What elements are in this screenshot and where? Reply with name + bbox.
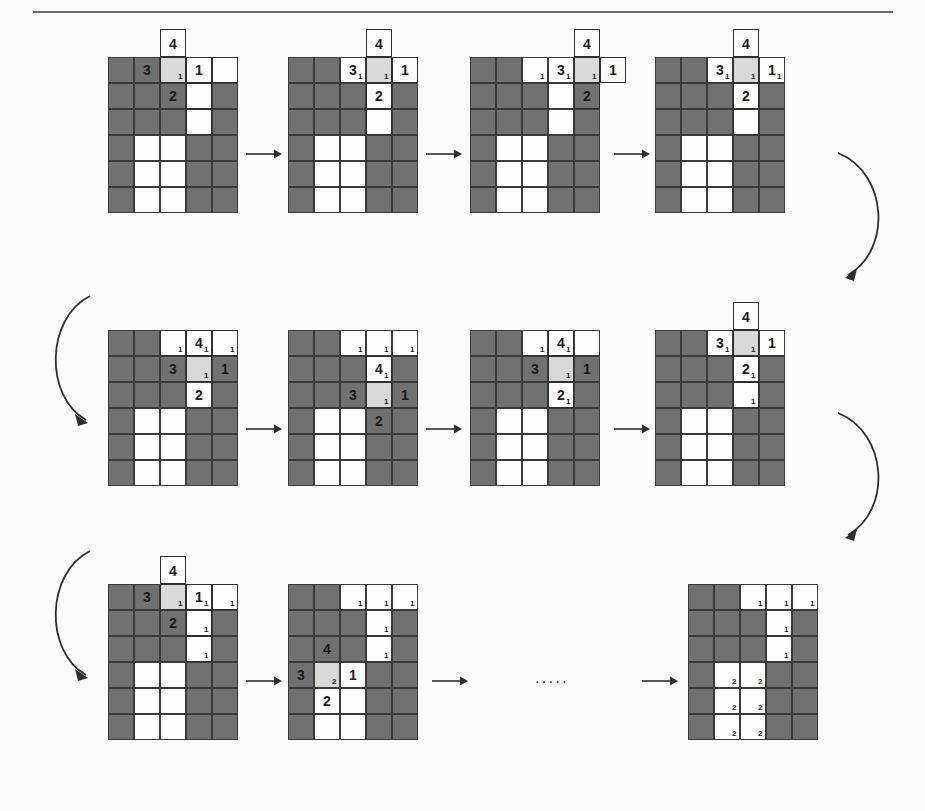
cell-value: 1 xyxy=(768,336,776,350)
cell-value: 3 xyxy=(169,362,177,376)
grid-cell xyxy=(496,434,522,460)
cell-value: 3 xyxy=(716,63,724,77)
grid-cell xyxy=(733,187,759,213)
cell-cost: 1 xyxy=(384,73,388,81)
grid-cell xyxy=(340,688,366,714)
grid-cell xyxy=(688,714,714,740)
grid-cell xyxy=(366,688,392,714)
grid-cell xyxy=(522,408,548,434)
grid-cell xyxy=(108,356,134,382)
page-top-rule xyxy=(33,11,893,13)
grid-cell xyxy=(470,83,496,109)
cell-value: 2 xyxy=(583,89,591,103)
grid-cell xyxy=(681,434,707,460)
grid-cell xyxy=(134,688,160,714)
grid-cell xyxy=(108,714,134,740)
grid-cell xyxy=(759,83,785,109)
grid-cell xyxy=(548,161,574,187)
cell-cost: 2 xyxy=(758,730,762,738)
grid-cell xyxy=(160,434,186,460)
grid-cell xyxy=(108,57,134,83)
continuation-ellipsis: ..... xyxy=(535,668,569,688)
grid-cell xyxy=(212,408,238,434)
grid-step-1: 43121 xyxy=(108,57,238,213)
grid-cell xyxy=(134,662,160,688)
grid-cell xyxy=(714,636,740,662)
grid-cell xyxy=(792,610,818,636)
cell-value: 1 xyxy=(195,63,203,77)
grid-cell xyxy=(548,408,574,434)
cell-cost: 1 xyxy=(758,600,762,608)
grid-cell xyxy=(160,187,186,213)
cell-cost: 1 xyxy=(230,346,234,354)
grid-cell xyxy=(496,460,522,486)
grid-cell xyxy=(470,187,496,213)
grid-cell xyxy=(688,662,714,688)
cell-cost: 1 xyxy=(566,346,570,354)
cell-cost: 1 xyxy=(751,398,755,406)
grid-cell xyxy=(212,460,238,486)
grid-cell xyxy=(288,408,314,434)
grid-cell xyxy=(288,187,314,213)
grid-cell xyxy=(160,382,186,408)
grid-cell xyxy=(470,135,496,161)
grid-cell xyxy=(108,688,134,714)
grid-cell xyxy=(314,187,340,213)
cell-value: 2 xyxy=(557,388,565,402)
grid-cell xyxy=(714,584,740,610)
cell-value: 3 xyxy=(349,63,357,77)
grid-cell xyxy=(186,161,212,187)
grid-cell xyxy=(574,109,600,135)
grid-cell xyxy=(134,135,160,161)
grid-cell xyxy=(574,161,600,187)
grid-cell xyxy=(108,109,134,135)
grid-cell xyxy=(655,408,681,434)
grid-cell xyxy=(160,636,186,662)
grid-cell xyxy=(522,187,548,213)
grid-cell xyxy=(340,135,366,161)
grid-cell xyxy=(314,382,340,408)
grid-cell xyxy=(574,460,600,486)
cell-value: 2 xyxy=(323,694,331,708)
grid-cell xyxy=(186,662,212,688)
grid-cell xyxy=(707,161,733,187)
grid-cell xyxy=(655,187,681,213)
grid-cell xyxy=(681,460,707,486)
grid-cell xyxy=(366,161,392,187)
popout-label: 4 xyxy=(583,37,591,51)
cell-value: 2 xyxy=(169,616,177,630)
grid-cell xyxy=(314,161,340,187)
grid-cell xyxy=(655,161,681,187)
grid-cell xyxy=(792,714,818,740)
cell-cost: 1 xyxy=(540,346,544,354)
grid-cell xyxy=(288,688,314,714)
grid-cell xyxy=(340,161,366,187)
grid-cell xyxy=(733,109,759,135)
grid-cell xyxy=(288,460,314,486)
grid-cell xyxy=(740,610,766,636)
cell-value: 2 xyxy=(375,89,383,103)
grid-cell xyxy=(108,161,134,187)
grid-cell xyxy=(134,161,160,187)
grid-cell xyxy=(134,714,160,740)
grid-cell xyxy=(340,109,366,135)
arrow-right-4 xyxy=(244,420,284,438)
grid-cell xyxy=(707,408,733,434)
grid-cell xyxy=(792,688,818,714)
grid-cell xyxy=(759,382,785,408)
grid-cell xyxy=(522,382,548,408)
grid-step-11: 11111222222 xyxy=(688,584,818,740)
cell-cost: 1 xyxy=(384,600,388,608)
cell-cost: 1 xyxy=(592,73,596,81)
grid-cell xyxy=(733,135,759,161)
grid-cell xyxy=(681,187,707,213)
grid-cell xyxy=(160,460,186,486)
grid-step-7: 43121111 xyxy=(470,330,600,486)
grid-cell xyxy=(548,83,574,109)
cell-cost: 1 xyxy=(751,73,755,81)
grid-cell xyxy=(392,109,418,135)
grid-cell xyxy=(655,356,681,382)
cell-cost: 2 xyxy=(732,704,736,712)
grid-cell xyxy=(392,83,418,109)
grid-cell xyxy=(108,187,134,213)
